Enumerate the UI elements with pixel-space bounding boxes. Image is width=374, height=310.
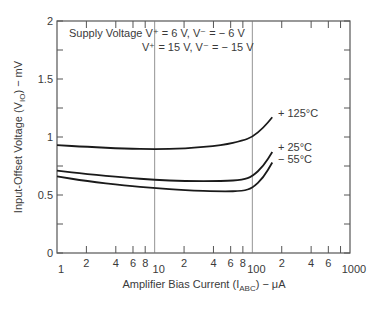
data-curves [57,117,272,191]
series-label: − 55°C [278,153,312,165]
y-tick-label: 2 [47,15,53,27]
plot-border [57,21,350,253]
y-tick-label: 1.5 [38,73,53,85]
grid-lines [155,21,253,253]
x-tick-label: 1 [58,263,64,275]
y-tick-label: 0.5 [38,189,53,201]
x-axis-label: Amplifier Bias Current (IABC) − μA [122,278,286,293]
y-tick-label: 1 [47,131,53,143]
x-tick-label: 1000 [342,263,366,275]
series-label: + 25°C [278,141,312,153]
curve-1 [57,152,272,181]
x-tick-label: 6 [228,257,234,269]
x-tick-label: 2 [181,257,187,269]
x-tick-label: 4 [113,257,119,269]
x-tick-label: 10 [153,263,165,275]
x-tick-label: 6 [130,257,136,269]
x-tick-label: 8 [240,257,246,269]
x-tick-label: 2 [83,257,89,269]
chart: 124681024681002461000 00.511.52 + 125°C+… [0,0,374,310]
annotation-line-1: Supply Voltage V⁺ = 6 V, V⁻ = − 6 V [69,27,245,39]
y-tick-label: 0 [47,247,53,259]
x-tick-label: 8 [142,257,148,269]
series-labels: + 125°C+ 25°C− 55°C [278,107,318,165]
x-tick-label: 100 [247,263,265,275]
x-tick-label: 4 [308,257,314,269]
annotation-line-2: V⁺ = 15 V, V⁻ = − 15 V [142,41,254,53]
x-tick-label: 2 [279,257,285,269]
x-tick-label: 6 [325,257,331,269]
plot-frame [57,21,350,253]
x-tick-label: 4 [210,257,216,269]
curve-2 [57,163,272,192]
y-axis-label: Input-Offset Voltage (VIO) − mV [12,60,27,213]
curve-0 [57,117,272,149]
series-label: + 125°C [278,107,318,119]
